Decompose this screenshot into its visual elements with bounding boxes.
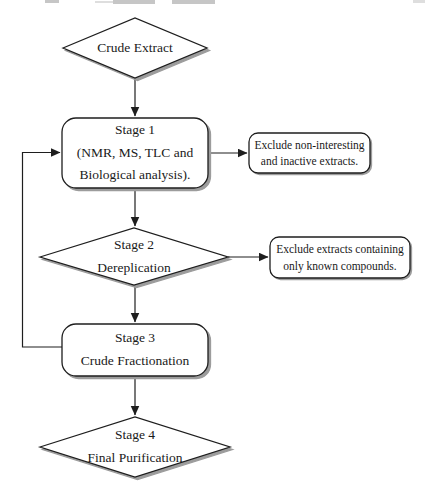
edge-stage3-feedback-to-stage1 — [23, 153, 63, 348]
node-crude-extract — [63, 18, 210, 81]
node-stage1 — [62, 118, 211, 191]
node-stage3 — [62, 324, 211, 379]
flowchart-graphics — [0, 0, 426, 491]
node-exclude-noninteresting — [249, 133, 372, 175]
flowchart-canvas: Crude Extract Stage 1 (NMR, MS, TLC and … — [0, 0, 426, 491]
node-exclude-known — [270, 237, 412, 280]
node-stage4 — [40, 417, 233, 480]
node-stage2 — [40, 228, 231, 288]
scan-artifact-top-cutoff-text — [45, 0, 425, 4]
